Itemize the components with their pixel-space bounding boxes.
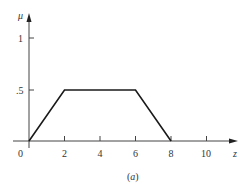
y-tick-label-half: .5 [16,85,24,96]
y-axis-label: μ [17,10,23,21]
x-tick-label-10: 10 [201,148,211,159]
membership-chart: μ 1 .5 0 2 4 6 8 10 z (a) [0,0,250,188]
x-tick-label-6: 6 [133,148,138,159]
y-tick-label-1: 1 [18,33,23,44]
x-tick-label-8: 8 [169,148,174,159]
x-axis-label: z [232,148,237,159]
x-tick-label-0: 0 [18,148,23,159]
x-axis-arrow-icon [229,139,238,144]
x-tick-label-2: 2 [62,148,67,159]
y-axis-arrow-icon [27,13,32,22]
x-tick-label-4: 4 [98,148,103,159]
membership-line [29,90,171,141]
figure-caption: (a) [127,171,139,183]
caption-letter: a [130,171,135,182]
